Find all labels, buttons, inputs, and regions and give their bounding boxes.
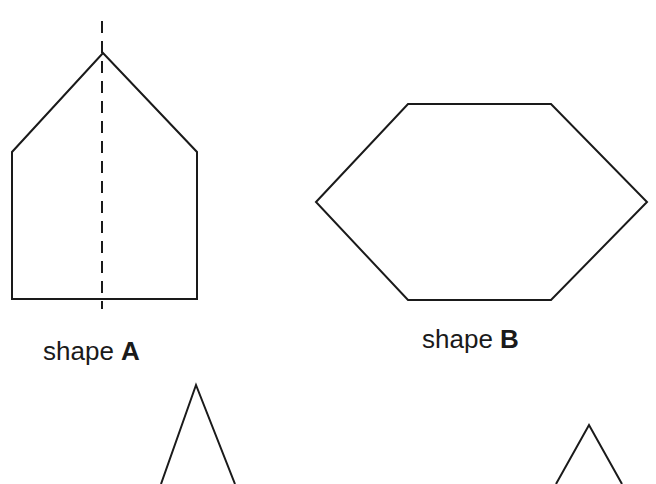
shape-b-label-prefix: shape [422, 324, 493, 354]
shape-a-label: shape A [43, 338, 140, 364]
shape-b-label: shape B [422, 326, 519, 352]
shape-b-hexagon [316, 104, 647, 300]
shape-b-label-letter: B [500, 324, 519, 354]
shapes-drawing [0, 0, 656, 484]
shape-a-label-prefix: shape [43, 336, 114, 366]
diagram-canvas: shape A shape B [0, 0, 656, 484]
shape-a-label-letter: A [121, 336, 140, 366]
partial-triangle-left [161, 385, 235, 484]
partial-triangle-right [556, 425, 622, 484]
shape-a-pentagon [12, 53, 197, 299]
